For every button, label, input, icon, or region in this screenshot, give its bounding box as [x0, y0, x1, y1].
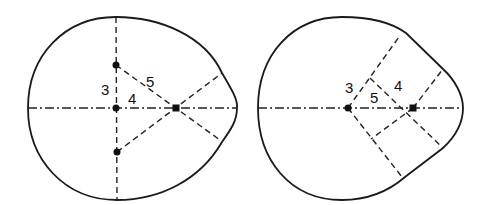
right-main-center-point [345, 105, 352, 112]
diagram-canvas: 3 4 5 3 4 5 [0, 0, 488, 205]
right-label-4: 4 [394, 77, 402, 94]
right-line-lower-left [348, 108, 402, 177]
right-figure: 3 4 5 [258, 17, 463, 200]
right-secondary-center-point [410, 105, 417, 112]
right-label-5: 5 [370, 89, 378, 106]
left-label-5: 5 [146, 73, 154, 90]
left-label-4: 4 [128, 90, 136, 107]
left-origin-point [113, 105, 120, 112]
right-label-3: 3 [345, 79, 353, 96]
right-line-4 [370, 78, 443, 148]
left-upper-center-point [113, 62, 120, 69]
left-label-3: 3 [101, 81, 109, 98]
left-figure: 3 4 5 [28, 17, 237, 200]
right-line-upper-radius [413, 69, 443, 108]
left-right-center-point [173, 105, 180, 112]
left-lower-center-point [114, 149, 121, 156]
left-hypotenuse-lower [117, 73, 222, 152]
